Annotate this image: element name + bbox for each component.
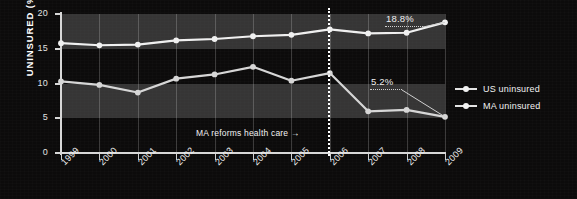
- data-point[interactable]: [173, 76, 179, 82]
- data-point[interactable]: [289, 32, 295, 38]
- legend-marker-icon: [455, 84, 477, 94]
- event-annotation-label: MA reforms health care →: [196, 128, 300, 138]
- legend-label-us: US uninsured: [483, 84, 540, 94]
- data-point[interactable]: [212, 72, 218, 78]
- data-point[interactable]: [173, 38, 179, 44]
- chart-root: UNINSURED (%) 05101520 19992000200120022…: [0, 0, 577, 199]
- data-point[interactable]: [58, 79, 64, 85]
- legend-item-us[interactable]: US uninsured: [455, 80, 540, 97]
- data-point[interactable]: [289, 78, 295, 84]
- legend-label-ma: MA uninsured: [483, 101, 540, 111]
- annotation-us-2009: 18.8%: [386, 13, 414, 24]
- data-point[interactable]: [365, 31, 371, 37]
- annotation-ma-2009: 5.2%: [371, 76, 393, 87]
- data-point[interactable]: [135, 42, 141, 48]
- data-point[interactable]: [97, 82, 103, 88]
- legend-item-ma[interactable]: MA uninsured: [455, 97, 540, 114]
- data-point[interactable]: [97, 42, 103, 48]
- data-point[interactable]: [404, 30, 410, 36]
- series-line: [61, 67, 445, 117]
- chart-legend: US uninsured MA uninsured: [455, 80, 540, 114]
- data-point[interactable]: [135, 90, 141, 96]
- data-point[interactable]: [404, 107, 410, 113]
- annotation-ma-underline: [370, 89, 402, 90]
- annotation-us-underline: [385, 26, 423, 27]
- data-point[interactable]: [365, 108, 371, 114]
- legend-marker-icon: [455, 101, 477, 111]
- data-point[interactable]: [250, 33, 256, 39]
- event-vertical-line: [328, 8, 330, 156]
- data-point[interactable]: [212, 36, 218, 42]
- data-point[interactable]: [58, 40, 64, 46]
- data-point[interactable]: [250, 64, 256, 70]
